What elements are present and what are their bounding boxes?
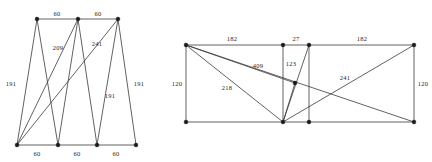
edge-weight-label: 209: [53, 44, 63, 51]
edge-weight-label: 123: [286, 60, 296, 67]
graph-edge: [17, 19, 37, 145]
edge-weight-label: 60: [74, 150, 81, 157]
edge-weight-label: 218: [222, 84, 232, 91]
graph-edge: [17, 19, 118, 145]
graph-node: [56, 143, 60, 147]
graph-node: [412, 120, 416, 124]
graph-node: [293, 81, 297, 85]
graph-node: [95, 143, 99, 147]
graph-node: [281, 43, 285, 47]
left-network: 6060209241191191191606060: [6, 10, 144, 157]
edge-weight-label: 182: [357, 35, 367, 42]
edge-weight-label: 120: [418, 80, 428, 87]
graph-edge: [186, 45, 283, 122]
edge-weight-label: 27: [293, 35, 300, 42]
diagram-canvas: 6060209241191191191606060182271824091232…: [0, 0, 432, 162]
graph-edge: [17, 19, 78, 145]
network-diagram-svg: 6060209241191191191606060182271824091232…: [0, 0, 432, 162]
edge-weight-label: 191: [6, 80, 16, 87]
edge-weight-label: 241: [92, 40, 102, 47]
edge-weight-label: 191: [105, 92, 115, 99]
graph-node: [184, 43, 188, 47]
graph-node: [15, 143, 19, 147]
edge-weight-label: 191: [134, 80, 144, 87]
edge-weight-label: 182: [227, 35, 237, 42]
edge-weight-label: 60: [34, 150, 41, 157]
edge-weight-label: 241: [340, 74, 350, 81]
graph-node: [35, 17, 39, 21]
graph-node: [184, 120, 188, 124]
right-network: 18227182409123241218120120: [172, 35, 428, 123]
graph-node: [307, 43, 311, 47]
graph-node: [307, 120, 311, 124]
edge-weight-label: 60: [113, 150, 120, 157]
graph-node: [281, 120, 285, 124]
graph-edge: [78, 19, 97, 145]
edge-weight-label: 409: [253, 62, 263, 69]
graph-node: [76, 17, 80, 21]
graph-edge: [186, 45, 295, 83]
edge-weight-label: 60: [95, 10, 102, 17]
edge-weight-label: 60: [54, 10, 61, 17]
graph-edge: [97, 19, 118, 145]
graph-node: [116, 17, 120, 21]
edge-weight-label: 120: [172, 80, 182, 87]
graph-node: [134, 143, 138, 147]
graph-edge: [283, 45, 414, 122]
graph-node: [412, 43, 416, 47]
